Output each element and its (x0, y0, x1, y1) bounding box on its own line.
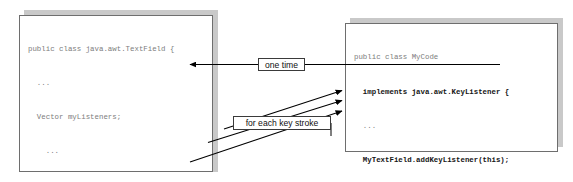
code-line: public class java.awt.TextField { (28, 44, 210, 55)
diagram-canvas: public class java.awt.TextField { ... Ve… (0, 0, 573, 182)
code-line-add-key-listener-call: MyTextField.addKeyListener(this); (354, 155, 555, 166)
code-line: ... (354, 121, 555, 132)
callout-one-time-label: one time (265, 60, 298, 70)
right-code-box: public class MyCode implements java.awt.… (345, 23, 558, 152)
left-code-box: public class java.awt.TextField { ... Ve… (19, 15, 213, 172)
callout-for-each-key-stroke: for each key stroke (233, 116, 331, 130)
code-line-implements: implements java.awt.KeyListener { (354, 87, 555, 98)
callout-for-each-key-stroke-label: for each key stroke (246, 118, 319, 128)
callout-one-time: one time (258, 58, 305, 71)
code-line: ... (28, 78, 210, 89)
right-code-lines: public class MyCode implements java.awt.… (354, 29, 555, 182)
code-line: ... (28, 146, 210, 157)
code-line: public class MyCode (354, 52, 555, 63)
code-line: Vector myListeners; (28, 112, 210, 123)
left-code-lines: public class java.awt.TextField { ... Ve… (28, 21, 210, 182)
code-line-add-key-listener: public void addKeyListener() { (28, 180, 210, 182)
bold-token-addkeylistener: addKeyListener (90, 181, 152, 182)
